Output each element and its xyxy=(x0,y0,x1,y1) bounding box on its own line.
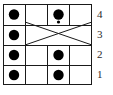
dot-r3-c3-small xyxy=(57,20,60,23)
dot-r1-c1 xyxy=(9,70,19,80)
dot-r2-c1 xyxy=(9,50,19,60)
dot-r2-c3 xyxy=(53,50,63,60)
row-label-3: 3 xyxy=(97,29,111,40)
dot-r4-c3 xyxy=(53,9,63,19)
dot-r4-c1 xyxy=(9,9,19,19)
dot-r3-c1 xyxy=(9,30,19,40)
dot-r1-c3 xyxy=(53,70,63,80)
row-label-1: 1 xyxy=(97,69,111,80)
row-label-4: 4 xyxy=(97,9,111,20)
dot-grid-diagram: 4 3 2 1 xyxy=(0,0,113,95)
row-label-2: 2 xyxy=(97,49,111,60)
